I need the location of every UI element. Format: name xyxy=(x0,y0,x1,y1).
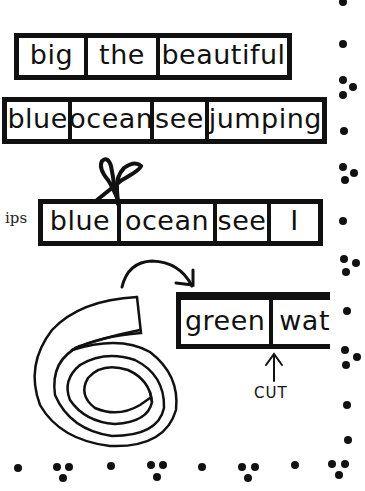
coiled-strip-icon xyxy=(35,297,177,446)
illustration-layer xyxy=(0,0,365,491)
dot-border-bottom xyxy=(14,460,349,482)
curved-arrow-icon xyxy=(122,261,193,287)
scissors-icon xyxy=(97,159,141,204)
dot-border-right xyxy=(339,0,361,444)
up-arrow-icon xyxy=(266,354,282,381)
